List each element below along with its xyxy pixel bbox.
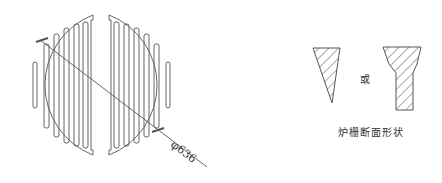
grate-drawing <box>0 0 442 183</box>
grate-right-half <box>109 15 170 155</box>
or-connector-text: 或 <box>360 71 370 86</box>
funnel-section <box>383 47 421 110</box>
cross-section-caption: 炉栅断面形状 <box>338 124 404 139</box>
triangular-section <box>313 48 340 103</box>
grate-left-half <box>33 15 93 155</box>
